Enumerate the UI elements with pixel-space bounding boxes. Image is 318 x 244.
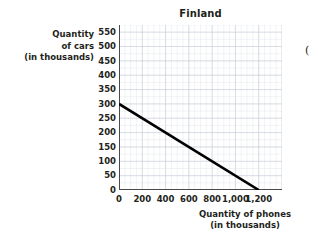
y-tick-label: 350 <box>82 85 116 94</box>
y-tick-label: 150 <box>82 143 116 152</box>
chart-figure: Finland Quantity of cars (in thousands) … <box>0 0 318 244</box>
y-tick-label: 0 <box>82 186 116 195</box>
y-tick-label: 100 <box>82 157 116 166</box>
plot-area <box>119 25 282 190</box>
x-axis-title: Quantity of phones (in thousands) <box>180 209 310 231</box>
plot-svg <box>119 25 282 190</box>
minor-gridlines <box>119 25 282 190</box>
y-tick-label: 500 <box>82 42 116 51</box>
cropped-paren-text: ( <box>305 44 309 57</box>
x-tick-labels: 02004006008001,0001,200 <box>0 195 318 209</box>
x-tick-label: 1,200 <box>239 195 279 204</box>
y-tick-label: 300 <box>82 100 116 109</box>
y-tick-label: 400 <box>82 71 116 80</box>
y-tick-label: 450 <box>82 57 116 66</box>
y-tick-label: 50 <box>82 171 116 180</box>
y-tick-label: 200 <box>82 128 116 137</box>
x-axis-title-line-1: Quantity of phones <box>180 209 310 220</box>
x-axis-title-line-2: (in thousands) <box>180 220 310 231</box>
y-tick-label: 250 <box>82 114 116 123</box>
y-tick-label: 550 <box>82 28 116 37</box>
chart-title: Finland <box>119 8 282 19</box>
